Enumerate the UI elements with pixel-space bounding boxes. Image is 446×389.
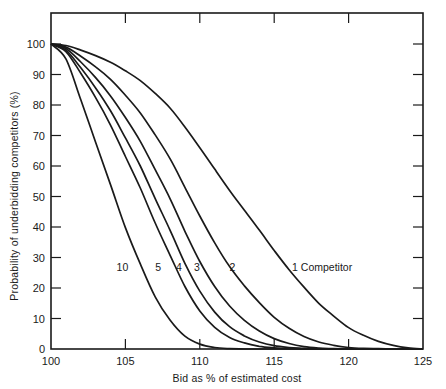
y-tick-label: 20	[33, 282, 45, 294]
y-tick-label: 30	[33, 252, 45, 264]
curve-label: 10	[117, 261, 129, 273]
curve-label: 1 Competitor	[292, 261, 353, 273]
y-tick-label: 10	[33, 313, 45, 325]
y-tick-label: 50	[33, 191, 45, 203]
x-tick-label: 110	[191, 355, 209, 367]
curve-group	[51, 44, 423, 349]
x-tick-label: 115	[265, 355, 283, 367]
curve-labels: 1054321 Competitor	[117, 261, 353, 273]
x-axis-title: Bid as % of estimated cost	[173, 372, 302, 384]
y-tick-label: 80	[33, 99, 45, 111]
x-tick-label: 100	[42, 355, 60, 367]
y-tick-label: 0	[39, 343, 45, 355]
x-tick-label: 120	[339, 355, 357, 367]
y-tick-label: 70	[33, 130, 45, 142]
plot-frame	[51, 13, 423, 349]
x-tick-label: 125	[414, 355, 432, 367]
y-axis: 0102030405060708090100	[27, 38, 423, 355]
y-tick-label: 40	[33, 221, 45, 233]
y-tick-label: 60	[33, 160, 45, 172]
curve-label: 2	[230, 261, 236, 273]
chart: 100105110115120125 010203040506070809010…	[0, 0, 446, 389]
y-tick-label: 100	[27, 38, 45, 50]
curve-label: 4	[176, 261, 182, 273]
curve-3-competitors	[51, 44, 423, 349]
x-tick-label: 105	[116, 355, 134, 367]
curve-label: 5	[155, 261, 161, 273]
curve-label: 3	[194, 261, 200, 273]
y-axis-title: Probability of underbidding competitors …	[8, 91, 20, 300]
y-tick-label: 90	[33, 69, 45, 81]
